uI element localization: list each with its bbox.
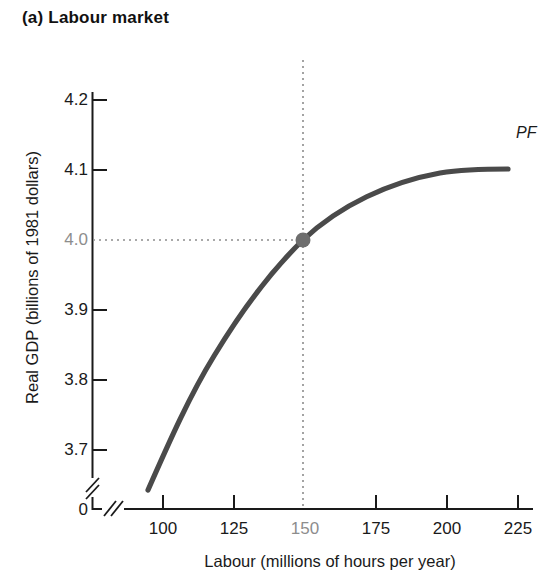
series-label-pf: PF xyxy=(516,124,536,142)
chart-canvas xyxy=(0,0,553,587)
x-tick-label-150: 150 xyxy=(275,519,335,539)
x-tick-label-225: 225 xyxy=(488,519,548,539)
y-tick-label-4-1: 4.1 xyxy=(40,160,88,180)
y-axis-title: Real GDP (billions of 1981 dollars) xyxy=(23,128,42,428)
y-tick-label-4-2: 4.2 xyxy=(40,90,88,110)
x-tick-label-200: 200 xyxy=(417,519,477,539)
page-title: (a) Labour market xyxy=(22,8,169,28)
x-axis-title: Labour (millions of hours per year) xyxy=(120,552,540,571)
x-axis-ticks xyxy=(163,495,518,509)
y-axis-ticks xyxy=(93,100,108,450)
origin-label: 0 xyxy=(40,500,88,520)
series-curve-pf xyxy=(148,169,508,490)
y-tick-label-3-7: 3.7 xyxy=(40,440,88,460)
figure-panel-labour-market: (a) Labour market Real GDP (billions of … xyxy=(0,0,553,587)
y-tick-label-4-0: 4.0 xyxy=(40,230,88,250)
y-axis-break-icon xyxy=(86,478,99,499)
x-tick-label-175: 175 xyxy=(346,519,406,539)
x-tick-label-100: 100 xyxy=(133,519,193,539)
x-tick-label-125: 125 xyxy=(204,519,264,539)
y-tick-label-3-9: 3.9 xyxy=(40,300,88,320)
y-tick-label-3-8: 3.8 xyxy=(40,370,88,390)
x-axis-break-icon xyxy=(104,501,123,516)
equilibrium-point-marker xyxy=(296,233,311,248)
